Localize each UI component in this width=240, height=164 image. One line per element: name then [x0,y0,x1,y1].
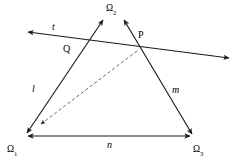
line-m-omega3-to-omega2 [124,20,192,134]
ideal-point-label-omega-2: Ω2 [106,4,116,15]
line-t-transversal [28,32,229,58]
ideal-point-label-omega-1: Ω1 [7,145,17,156]
dashed-p-to-omega1 [41,51,137,124]
point-label-Q: Q [63,44,70,54]
omega-1-subscript: 1 [14,150,17,157]
line-label-n: n [107,140,112,150]
omega-3-base: Ω [193,144,200,154]
line-label-m: m [172,85,179,95]
line-label-l: l [32,84,35,94]
omega-2-subscript: 2 [113,9,116,16]
line-label-t: t [52,22,55,32]
omega-3-subscript: 3 [200,150,203,157]
omega-2-base: Ω [106,3,113,13]
geometry-figure: Q P Ω2 Ω1 Ω3 t l m n [0,0,240,164]
ideal-point-label-omega-3: Ω3 [193,145,203,156]
diagram-lines [27,20,229,136]
omega-1-base: Ω [7,144,14,154]
point-label-P: P [138,30,144,40]
diagram-canvas [0,0,240,164]
